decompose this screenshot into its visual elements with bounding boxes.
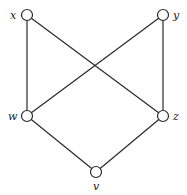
edges-group xyxy=(27,15,163,172)
node-label-w: w xyxy=(8,110,18,123)
edge-z-v xyxy=(96,116,163,172)
edge-w-v xyxy=(27,116,96,172)
node-label-y: y xyxy=(172,9,180,22)
node-v xyxy=(91,167,102,178)
hasse-diagram: xywzv xyxy=(0,0,187,195)
node-label-x: x xyxy=(10,9,17,22)
labels-group: xywzv xyxy=(8,9,180,193)
node-y xyxy=(158,10,169,21)
nodes-group xyxy=(22,10,169,178)
node-label-v: v xyxy=(93,180,100,193)
node-w xyxy=(22,111,33,122)
node-label-z: z xyxy=(172,110,179,123)
node-x xyxy=(22,10,33,21)
node-z xyxy=(158,111,169,122)
